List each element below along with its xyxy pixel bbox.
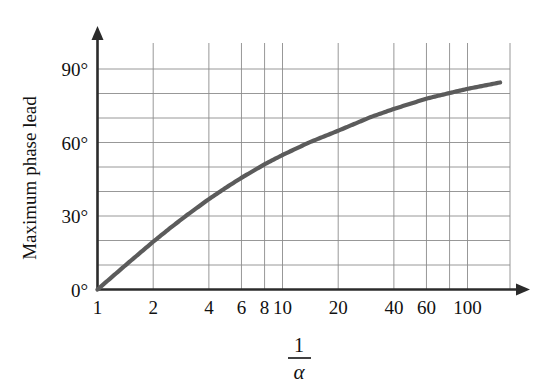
- x-tick-label-1: 1: [93, 297, 103, 318]
- phase-lead-curve: [98, 82, 501, 289]
- x-axis-title-denominator: α: [293, 360, 305, 384]
- vertical-gridlines: [153, 43, 510, 290]
- axes: [92, 26, 531, 296]
- x-axis-title: 1 α: [288, 334, 311, 384]
- x-axis-title-numerator: 1: [294, 334, 304, 356]
- y-axis-arrow-icon: [92, 26, 104, 40]
- y-tick-label-90: 90°: [61, 59, 88, 80]
- x-tick-label-20: 20: [329, 297, 348, 318]
- y-tick-label-60: 60°: [61, 133, 88, 154]
- y-tick-label-30: 30°: [61, 206, 88, 227]
- y-tick-label-0: 0°: [71, 280, 88, 301]
- x-tick-label-6: 6: [237, 297, 247, 318]
- x-tick-label-8: 8: [260, 297, 270, 318]
- x-tick-label-40: 40: [384, 297, 403, 318]
- x-tick-label-4: 4: [204, 297, 214, 318]
- x-tick-label-10: 10: [273, 297, 292, 318]
- phase-lead-chart: 0°30°60°90° 1246810204060100 Maximum pha…: [0, 0, 553, 392]
- figure-maximum-phase-lead: 0°30°60°90° 1246810204060100 Maximum pha…: [0, 0, 553, 392]
- x-tick-label-60: 60: [417, 297, 436, 318]
- x-axis-arrow-icon: [516, 284, 530, 296]
- y-tick-labels: 0°30°60°90°: [61, 59, 88, 301]
- y-axis-title: Maximum phase lead: [19, 96, 40, 260]
- x-tick-label-2: 2: [148, 297, 158, 318]
- x-tick-label-100: 100: [453, 297, 482, 318]
- x-tick-labels: 1246810204060100: [93, 297, 482, 318]
